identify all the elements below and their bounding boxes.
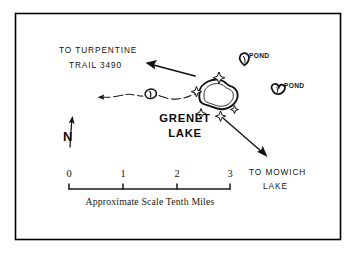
map-figure: TO TURPENTINE TRAIL 3490 GRENET LAKE PON… [0, 0, 356, 260]
label-to-mowich-lake-line1: TO MOWICH [249, 168, 306, 178]
scale-tick-label-3: 3 [223, 168, 237, 179]
label-grenet-lake-line1: GRENET [140, 112, 230, 125]
scale-tick-label-2: 2 [170, 168, 184, 179]
label-to-mowich-lake-line2: LAKE [263, 182, 288, 192]
scale-tick-label-0: 0 [62, 168, 76, 179]
scale-bar-caption: Approximate Scale Tenth Miles [54, 196, 246, 208]
label-pond-lower: POND [284, 82, 304, 90]
label-to-turpentine-trail-line1: TO TURPENTINE [59, 46, 137, 56]
label-to-turpentine-trail-line2: TRAIL 3490 [69, 61, 122, 71]
trail-pond [145, 89, 156, 99]
label-pond-upper: POND [249, 52, 269, 60]
label-north: N [63, 129, 72, 144]
pond-lower-shape [271, 84, 284, 94]
scale-tick-label-1: 1 [116, 168, 130, 179]
label-grenet-lake-line2: LAKE [140, 127, 230, 140]
